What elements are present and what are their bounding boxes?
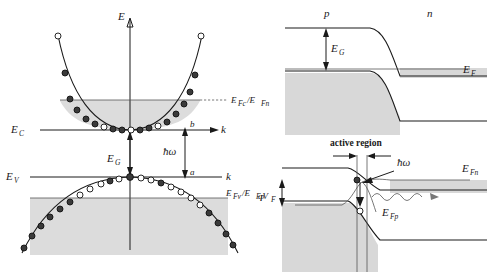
electron-marker [215,220,221,226]
bias-conduction-shading-n [390,180,487,193]
hole-marker [198,33,204,39]
bias-photon-label: ħω [397,156,411,168]
hole-marker [87,186,93,192]
bandgap-label-equilibrium-sub: G [339,48,345,57]
bias-efn-label-sub: Fn [469,168,479,177]
electron-marker [107,178,113,184]
electron-marker [119,127,125,133]
transition-point-b-label: b [190,119,195,129]
bandgap-label-equilibrium: E [330,42,338,54]
electron-marker [173,111,179,117]
electron-marker [187,89,193,95]
electron-marker [137,127,143,133]
k-axis-upper-label: k [221,123,227,135]
efp-mid: /E [241,188,251,198]
hole-marker [155,123,161,129]
bias-efn-label: E [461,162,469,174]
electron-marker [230,242,236,248]
electron-marker [67,96,73,102]
hole-marker [357,208,363,214]
emitted-photon-arrowhead [430,193,439,200]
bias-valence-shading-p [282,203,378,272]
hole-marker [148,177,154,183]
electron-marker [92,121,98,127]
emitted-photon-wave [372,194,422,201]
efn-sub: Fn [260,99,270,108]
conduction-edge-label-sub: C [19,129,25,138]
bandgap-arrow-equilibrium [323,28,329,71]
photon-label-left: ħω [163,145,177,157]
electron-marker [38,223,44,229]
bias-voltage-label-sub: F [270,195,276,204]
hole-marker [197,202,203,208]
electron-marker [146,125,152,131]
hole-marker [55,33,61,39]
figure-svg: E k E C k E V E Fc /E Fn E Fv /E Fp [0,0,497,275]
electron-marker [127,174,134,181]
hole-marker [98,181,104,187]
electron-marker [110,126,116,132]
fermi-level-label-sub: F [470,69,476,78]
hole-marker [188,195,194,201]
electron-marker [164,119,170,125]
active-region-dimension-arrows [333,153,391,159]
figure-root: E k E C k E V E Fc /E Fn E Fv /E Fp [0,0,497,275]
electron-marker [223,231,229,237]
hole-marker [116,176,122,182]
electron-marker [181,101,187,107]
efc-label: E [230,95,237,105]
photon-transition-arrow-left [182,127,188,179]
panel-left-ek: E k E C k E V E Fc /E Fn E Fv /E Fp [5,10,270,255]
electron-marker [62,70,68,76]
electron-marker [74,107,80,113]
hole-marker [101,124,107,130]
panel-bottom-right-junction: E Fn E Fp qV F active region [258,138,487,272]
bias-efp-label-sub: Fp [389,212,399,221]
electron-marker [158,180,164,186]
hole-marker [77,192,83,198]
hole-marker [178,189,184,195]
bandgap-label-left-sub: G [115,158,121,167]
bias-voltage-arrow [279,179,285,207]
transition-point-a-label: a [190,167,195,177]
valence-edge-label-sub: V [14,176,20,185]
conduction-k-axis-arrowhead [210,127,219,133]
electron-marker [29,233,35,239]
conduction-quasi-fermi-label-group: E Fc /E Fn [230,95,270,108]
electron-marker [21,245,27,251]
electron-marker [47,214,53,220]
efv-sub: Fv [232,192,242,201]
k-axis-lower-label: k [226,170,232,182]
n-region-label: n [427,7,433,19]
hole-marker [168,184,174,190]
hole-marker [128,127,134,133]
electron-marker [67,199,73,205]
active-region-label: active region [330,138,383,148]
electron-marker [192,72,198,78]
bias-voltage-label: qV [258,191,270,201]
equilibrium-valence-shading [285,73,400,135]
valence-edge-label: E [5,170,13,182]
efn-mid: /E [246,95,256,105]
bias-efp-label: E [381,206,389,218]
bandgap-arrow-left-panel [127,131,133,176]
energy-axis-label: E [117,10,125,22]
electron-marker [83,116,89,122]
electron-marker [57,206,63,212]
efc-sub: Fc [237,99,247,108]
fermi-level-label: E [462,63,470,75]
efv-label: E [225,188,232,198]
electron-marker [206,210,212,216]
panel-top-right-junction: E F p n E G [285,7,487,135]
bandgap-label-left: E [106,152,114,164]
conduction-edge-label: E [10,123,18,135]
p-region-label: p [323,7,330,19]
electron-marker [354,177,360,183]
hole-marker [138,175,144,181]
